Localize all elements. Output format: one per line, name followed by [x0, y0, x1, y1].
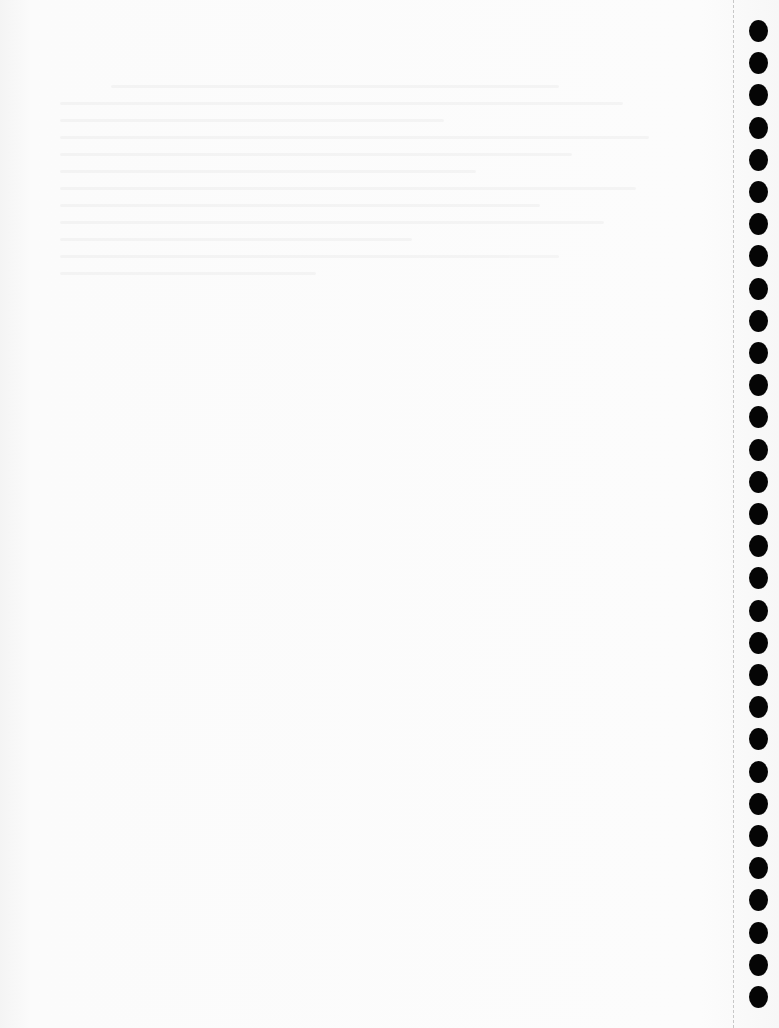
notebook-page — [0, 0, 779, 1028]
punch-hole — [749, 20, 768, 42]
punch-hole — [749, 696, 768, 718]
punch-hole — [749, 889, 768, 911]
punch-hole — [749, 728, 768, 750]
punch-hole — [749, 278, 768, 300]
punch-hole — [749, 245, 768, 267]
punch-hole — [749, 761, 768, 783]
punch-hole — [749, 535, 768, 557]
punch-hole — [749, 600, 768, 622]
punch-hole — [749, 664, 768, 686]
punch-hole — [749, 954, 768, 976]
bleed-through-text — [60, 85, 700, 385]
punch-hole — [749, 310, 768, 332]
punch-hole — [749, 793, 768, 815]
binding-holes — [749, 0, 779, 1028]
punch-hole — [749, 117, 768, 139]
punch-hole — [749, 825, 768, 847]
punch-hole — [749, 342, 768, 364]
punch-hole — [749, 922, 768, 944]
punch-hole — [749, 439, 768, 461]
punch-hole — [749, 567, 768, 589]
perforation-line — [733, 0, 734, 1028]
punch-hole — [749, 406, 768, 428]
punch-hole — [749, 986, 768, 1008]
punch-hole — [749, 149, 768, 171]
punch-hole — [749, 84, 768, 106]
punch-hole — [749, 471, 768, 493]
punch-hole — [749, 374, 768, 396]
punch-hole — [749, 52, 768, 74]
punch-hole — [749, 632, 768, 654]
punch-hole — [749, 181, 768, 203]
punch-hole — [749, 213, 768, 235]
punch-hole — [749, 503, 768, 525]
punch-hole — [749, 857, 768, 879]
